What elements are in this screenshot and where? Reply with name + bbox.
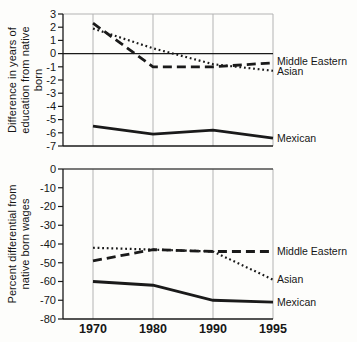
panel-wages-y-tick-label: -20 (40, 200, 56, 212)
immigrant-differentials-figure: 3210-1-2-3-4-5-6-7Middle EasternAsianMex… (0, 0, 357, 342)
panel-wages-series-label-mexican: Mexican (277, 296, 316, 308)
panel-education-y-tick-label: -1 (46, 61, 56, 73)
panel-education-y-tick-label: 1 (50, 34, 56, 46)
panel-wages-series-label-middle-eastern: Middle Eastern (277, 245, 347, 257)
panel-wages-y-tick-label: -50 (40, 257, 56, 269)
x-tick-label-1995: 1995 (259, 322, 287, 336)
panel-wages-y-tick-label: -40 (40, 238, 56, 250)
panel-education-series-label-mexican: Mexican (277, 132, 316, 144)
panel-education-y-tick-label: -6 (46, 127, 56, 139)
x-tick-label-1970: 1970 (79, 322, 107, 336)
panel-wages-y-tick-label: -70 (40, 294, 56, 306)
panel-wages-series-line-mexican (93, 282, 273, 303)
panel-wages-y-tick-label: -30 (40, 219, 56, 231)
panel-wages-series-line-middle-eastern (93, 250, 273, 261)
panel-wages-series-label-asian: Asian (277, 273, 303, 285)
bottom-chart-y-axis-label: Percent differential from native born wa… (6, 169, 34, 319)
panel-wages-y-tick-label: -10 (40, 182, 56, 194)
top-chart-y-axis-label: Difference in years of education from na… (6, 14, 34, 146)
panel-education-series-line-mexican (93, 126, 273, 138)
panel-education-y-tick-label: 2 (50, 21, 56, 33)
panel-education-y-tick-label: 3 (50, 8, 56, 20)
panel-education-y-tick-label: -7 (46, 140, 56, 152)
panel-wages-y-tick-label: 0 (50, 163, 56, 175)
x-tick-label-1980: 1980 (139, 322, 167, 336)
line-charts-canvas: 3210-1-2-3-4-5-6-7Middle EasternAsianMex… (0, 0, 357, 342)
panel-education-series-line-middle-eastern (93, 23, 273, 67)
panel-wages-y-tick-label: -80 (40, 313, 56, 325)
x-tick-label-1990: 1990 (199, 322, 227, 336)
panel-education-y-tick-label: 0 (50, 47, 56, 59)
panel-education-series-label-asian: Asian (277, 65, 303, 77)
panel-education-y-tick-label: -3 (46, 87, 56, 99)
panel-education-y-tick-label: -4 (46, 100, 56, 112)
panel-education-series-line-asian (93, 29, 273, 71)
panel-education-y-tick-label: -5 (46, 113, 56, 125)
panel-wages-y-tick-label: -60 (40, 275, 56, 287)
panel-education-y-tick-label: -2 (46, 74, 56, 86)
